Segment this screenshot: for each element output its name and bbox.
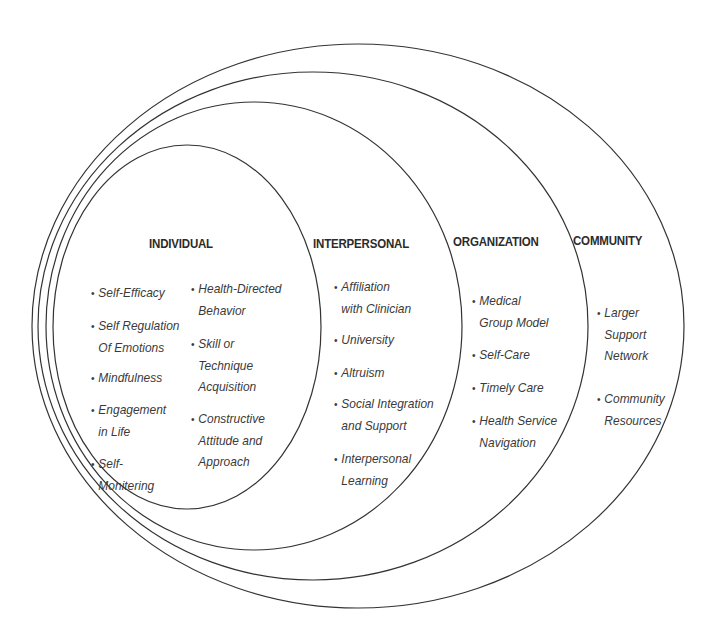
bullet-icon: • [334, 363, 341, 384]
bullet-icon: • [597, 389, 604, 410]
bullet-icon: • [472, 345, 479, 366]
list-item-mindfulness: •Mindfulness [91, 367, 162, 389]
bullet-icon: • [91, 283, 98, 304]
list-item-health-directed-behavior: •Health-Directed Behavior [191, 278, 281, 321]
list-item-university: •University [334, 329, 394, 351]
list-item-affiliation: •Affiliation with Clinician [334, 276, 411, 319]
interpersonal-heading: INTERPERSONAL [313, 237, 409, 251]
bullet-icon: • [91, 400, 98, 421]
bullet-icon: • [91, 368, 98, 389]
social-ecological-diagram: INDIVIDUAL INTERPERSONAL ORGANIZATION CO… [0, 0, 712, 632]
bullet-icon: • [91, 454, 98, 475]
bullet-icon: • [334, 277, 341, 298]
bullet-icon: • [334, 330, 341, 351]
community-heading: COMMUNITY [573, 234, 642, 248]
list-item-interpersonal-learning: •Interpersonal Learning [334, 448, 411, 491]
bullet-icon: • [191, 279, 198, 300]
list-item-medical-group-model: •Medical Group Model [472, 290, 549, 333]
bullet-icon: • [334, 394, 341, 415]
list-item-timely-care: •Timely Care [472, 377, 544, 399]
bullet-icon: • [334, 449, 341, 470]
bullet-icon: • [91, 316, 98, 337]
individual-heading: INDIVIDUAL [149, 237, 213, 251]
list-item-self-efficacy: •Self-Efficacy [91, 282, 165, 304]
bullet-icon: • [472, 378, 479, 399]
list-item-social-integration: •Social Integration and Support [334, 393, 434, 436]
list-item-constructive-attitude: •Constructive Attitude and Approach [191, 408, 265, 472]
bullet-icon: • [597, 303, 604, 324]
bullet-icon: • [191, 409, 198, 430]
list-item-self-monitoring: •Self- Monitering [91, 453, 154, 496]
list-item-health-service-navigation: •Health Service Navigation [472, 410, 557, 453]
organization-heading: ORGANIZATION [453, 235, 539, 249]
list-item-engagement: •Engagement in Life [91, 399, 166, 442]
list-item-larger-support-network: •Larger Support Network [597, 302, 648, 366]
list-item-self-care: •Self-Care [472, 344, 530, 366]
list-item-altruism: •Altruism [334, 362, 385, 384]
list-item-community-resources: •Community Resources [597, 388, 665, 431]
bullet-icon: • [472, 411, 479, 432]
list-item-skill-acquisition: •Skill or Technique Acquisition [191, 333, 256, 397]
bullet-icon: • [472, 291, 479, 312]
bullet-icon: • [191, 334, 198, 355]
list-item-self-regulation: •Self Regulation Of Emotions [91, 315, 179, 358]
